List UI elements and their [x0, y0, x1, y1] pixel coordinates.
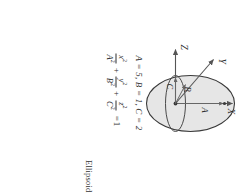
equation-term-x-numerator: x2 — [116, 53, 128, 64]
equation-term-z-denominator: C2 — [105, 99, 116, 112]
equation-term-x-denominator: A2 — [105, 53, 116, 65]
equation-term-y-numerator: y2 — [116, 76, 128, 87]
equation-plus-1: + — [111, 67, 121, 74]
equation-term-z-numerator: z2 — [116, 100, 128, 110]
ellipsoid-plot-area: X Y Z A B C — [146, 42, 156, 158]
ellipsoid-figure: X Y Z A B C A = 5, B = 1, C = 2 x2 — [83, 42, 156, 158]
equation-plus-2: + — [111, 90, 121, 97]
ellipsoid-surface — [147, 76, 156, 132]
ellipsoid-diagram: X Y Z A B C — [146, 42, 156, 158]
figure-text-block: A = 5, B = 1, C = 2 x2 A2 + y2 B2 + z2 C… — [83, 42, 146, 158]
equation-term-x: x2 A2 — [105, 53, 128, 65]
equation-term-z: z2 C2 — [105, 99, 128, 112]
equation-right-hand-side: 1 — [111, 122, 121, 127]
equation-equals-sign: = — [111, 114, 121, 121]
equation-term-y: y2 B2 — [105, 76, 128, 88]
equation-term-y-denominator: B2 — [105, 76, 116, 88]
ellipsoid-equation: x2 A2 + y2 B2 + z2 C2 = 1 — [105, 52, 128, 127]
parameter-values-text: A = 5, B = 1, C = 2 — [134, 56, 144, 131]
